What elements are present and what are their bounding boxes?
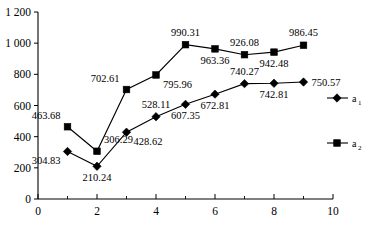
data-point-marker (63, 147, 71, 155)
x-axis-tick-labels: 0246810 (35, 205, 339, 217)
data-point-marker (240, 79, 248, 87)
chart-canvas: 02004006008001 0001 200 0246810 304.8321… (0, 0, 375, 240)
data-point-marker (152, 113, 160, 121)
y-axis-tick-marks (34, 12, 38, 199)
y-tick-label: 400 (14, 131, 32, 143)
x-axis-tick-marks (38, 194, 333, 199)
y-axis: 02004006008001 0001 200 (5, 6, 38, 205)
data-point-label: 528.11 (142, 99, 171, 110)
legend-entry: a1 (327, 93, 362, 107)
data-point-label: 926.08 (230, 37, 259, 48)
data-point-marker (181, 100, 189, 108)
data-point-label: 990.31 (171, 27, 200, 38)
data-point-label: 750.57 (312, 77, 341, 88)
data-point-marker (270, 79, 278, 87)
x-tick-label: 4 (153, 205, 159, 217)
chart-legend: a1a2 (327, 93, 362, 152)
data-point-label: 210.24 (83, 172, 113, 183)
line-chart: 02004006008001 0001 200 0246810 304.8321… (0, 0, 375, 240)
data-point-label: 795.96 (163, 79, 192, 90)
legend-label: a (352, 138, 357, 149)
legend-label: a (352, 93, 357, 104)
data-point-marker (300, 42, 307, 49)
y-tick-label: 600 (14, 100, 32, 112)
data-point-marker (182, 41, 189, 48)
data-point-marker (64, 123, 71, 130)
data-point-marker (271, 49, 278, 56)
x-tick-label: 8 (271, 205, 277, 217)
data-point-label: 306.29 (104, 134, 133, 145)
legend-marker-square (334, 140, 341, 147)
x-tick-label: 0 (35, 205, 41, 217)
data-point-label: 986.45 (289, 27, 318, 38)
x-tick-label: 6 (212, 205, 218, 217)
y-tick-label: 1 000 (5, 37, 31, 49)
data-point-marker (299, 78, 307, 86)
data-point-marker (153, 72, 160, 79)
y-axis-tick-labels: 02004006008001 0001 200 (5, 6, 31, 205)
data-point-label: 463.68 (32, 110, 61, 121)
x-tick-label: 2 (94, 205, 100, 217)
legend-label-subscript: 2 (358, 144, 362, 152)
y-tick-label: 800 (14, 68, 32, 80)
legend-label-subscript: 1 (358, 99, 362, 107)
data-point-marker (211, 90, 219, 98)
data-point-label: 304.83 (32, 155, 61, 166)
data-point-marker (212, 46, 219, 53)
legend-marker-diamond (333, 94, 341, 102)
legend-entry: a2 (327, 138, 362, 152)
data-point-label: 607.35 (171, 110, 200, 121)
data-point-label: 742.81 (260, 89, 289, 100)
data-point-marker (94, 148, 101, 155)
y-tick-label: 1 200 (5, 6, 31, 18)
y-tick-label: 200 (14, 162, 32, 174)
data-point-label: 672.81 (201, 100, 230, 111)
data-point-label: 740.27 (230, 66, 259, 77)
data-point-marker (123, 86, 130, 93)
data-point-label: 702.61 (91, 73, 120, 84)
x-axis: 0246810 (35, 194, 339, 217)
data-point-marker (241, 51, 248, 58)
data-point-label: 942.48 (260, 58, 289, 69)
x-tick-label: 10 (327, 205, 339, 217)
y-tick-label: 0 (25, 193, 31, 205)
data-point-label: 428.62 (134, 136, 163, 147)
data-point-label: 963.36 (201, 55, 230, 66)
